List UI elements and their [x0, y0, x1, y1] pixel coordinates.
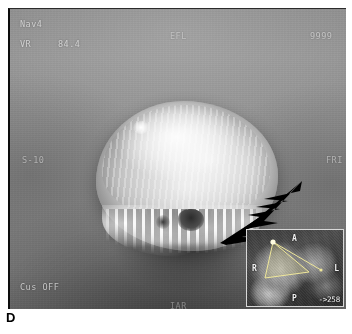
- ultrasound-viewport[interactable]: Nav4 VR 84.4 EFL 9999 S-10 FRI Cus OFF I…: [8, 8, 346, 309]
- panel-letter: D: [6, 310, 16, 325]
- lesion-specular-highlight: [133, 121, 149, 134]
- figure-panel: Nav4 VR 84.4 EFL 9999 S-10 FRI Cus OFF I…: [0, 0, 352, 334]
- reference-slice-inset[interactable]: A R L P ->258: [246, 229, 344, 307]
- lesion-defect-notch: [178, 209, 204, 231]
- lesion-defect-notch-small: [156, 215, 170, 229]
- acoustic-shadow: [110, 245, 260, 305]
- inset-plane-indicator: [247, 230, 343, 306]
